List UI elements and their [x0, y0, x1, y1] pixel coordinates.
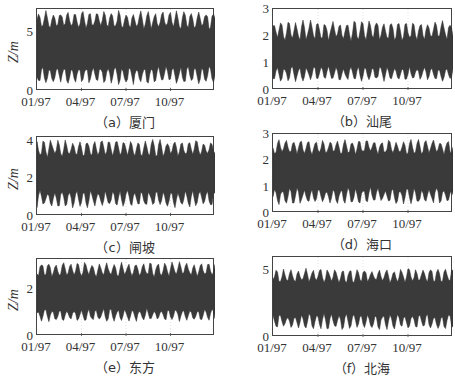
- plot-area: [272, 8, 452, 89]
- x-tick-label: 10/97: [392, 341, 422, 354]
- x-tick-label: 10/97: [392, 94, 422, 107]
- plot-area: [36, 258, 214, 335]
- x-tick-label: 07/97: [347, 341, 377, 354]
- x-tick-label: 07/97: [110, 95, 140, 108]
- x-tick-label: 01/97: [21, 95, 51, 108]
- y-tick-label: 1: [255, 180, 269, 193]
- x-tick-label: 10/97: [155, 220, 185, 233]
- y-axis-label: Z/m: [6, 289, 22, 311]
- plot-area: [36, 8, 214, 90]
- plot-area: [36, 136, 214, 215]
- y-tick-label: 3: [255, 127, 269, 140]
- x-tick-label: 04/97: [66, 220, 96, 233]
- y-tick-label: 2: [255, 29, 269, 42]
- panel-caption: （c）闸坡: [95, 237, 154, 256]
- x-tick-label: 07/97: [110, 220, 140, 233]
- tide-series-plot: [273, 257, 453, 337]
- y-axis-label: Z/m: [6, 168, 22, 190]
- x-tick-label: 04/97: [302, 217, 332, 230]
- x-tick-label: 07/97: [347, 217, 377, 230]
- y-tick-label: 2: [255, 153, 269, 166]
- x-tick-label: 10/97: [392, 217, 422, 230]
- x-tick-label: 01/97: [257, 94, 287, 107]
- y-tick-label: 4: [19, 134, 33, 147]
- y-axis-label: Z/m: [6, 41, 22, 63]
- tide-series-plot: [273, 9, 453, 90]
- x-tick-label: 01/97: [21, 340, 51, 353]
- x-tick-label: 01/97: [257, 217, 287, 230]
- plot-area: [272, 256, 452, 336]
- panel-caption: （f）北海: [334, 358, 391, 377]
- x-tick-label: 01/97: [21, 220, 51, 233]
- y-tick-label: 3: [255, 2, 269, 15]
- x-tick-label: 01/97: [257, 341, 287, 354]
- y-tick-label: 5: [255, 263, 269, 276]
- x-tick-label: 04/97: [302, 94, 332, 107]
- panel-caption: （b）汕尾: [332, 111, 392, 130]
- x-tick-label: 07/97: [110, 340, 140, 353]
- tide-series-plot: [37, 137, 215, 216]
- tide-series-plot: [37, 9, 215, 91]
- panel-caption: （a）厦门: [95, 112, 155, 131]
- y-tick-label: 1: [255, 56, 269, 69]
- x-tick-label: 10/97: [155, 95, 185, 108]
- x-tick-label: 04/97: [302, 341, 332, 354]
- panel-caption: （d）海口: [332, 234, 392, 253]
- panel-caption: （e）东方: [95, 357, 155, 376]
- x-tick-label: 07/97: [347, 94, 377, 107]
- plot-area: [272, 133, 452, 212]
- tide-series-plot: [273, 134, 453, 213]
- x-tick-label: 10/97: [155, 340, 185, 353]
- tide-series-plot: [37, 259, 215, 336]
- x-tick-label: 04/97: [66, 340, 96, 353]
- y-tick-label: 5: [19, 25, 33, 38]
- x-tick-label: 04/97: [66, 95, 96, 108]
